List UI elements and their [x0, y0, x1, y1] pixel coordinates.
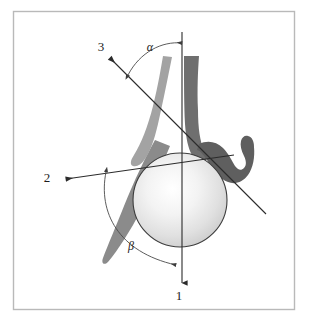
axis-3-label: 3	[98, 39, 105, 54]
figure-container: 1 2 3 α β	[0, 0, 309, 329]
angle-beta-label: β	[127, 239, 134, 253]
angle-alpha-label: α	[147, 40, 154, 54]
axis-2-label: 2	[44, 170, 51, 185]
axis-1-label: 1	[176, 288, 183, 303]
axes-diagram: 1 2 3 α β	[0, 0, 309, 329]
